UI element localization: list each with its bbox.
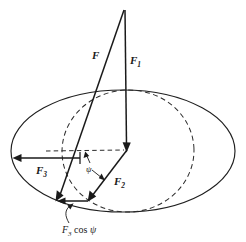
vector-f3-arrowhead — [13, 154, 22, 162]
force-diagram-canvas: F F1 F2 F3 ψ F3 cos ψ — [0, 0, 246, 242]
label-f: F — [91, 49, 100, 61]
horizontal-axis-dashed-line — [46, 150, 124, 151]
angle-psi-upper-arrowhead — [84, 152, 90, 159]
vector-f1-shaft — [125, 10, 127, 145]
label-f3: F3 — [35, 164, 47, 179]
outer-ellipse — [11, 90, 235, 212]
angle-psi-lower-arrowhead — [99, 174, 105, 181]
force-diagram-figure: F F1 F2 F3 ψ F3 cos ψ — [0, 0, 246, 242]
label-f1: F1 — [129, 54, 141, 69]
label-f2: F2 — [113, 175, 125, 190]
label-f3-cos-psi: F3 cos ψ — [61, 224, 97, 238]
label-angle-psi: ψ — [86, 164, 92, 174]
